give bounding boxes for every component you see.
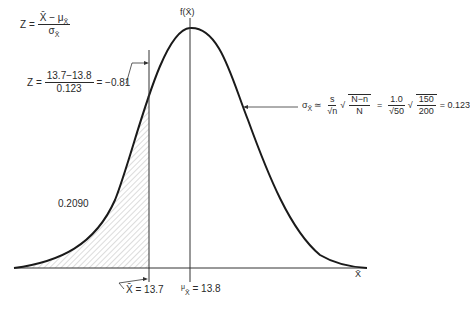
- sigma-formula: σX̄ ≃ s√n √N−nN = 1.0√50 √150200 = 0.123: [302, 94, 470, 116]
- mean-marker-label: μX̄ = 13.8: [181, 284, 221, 294]
- x-axis-label: X̄: [355, 270, 361, 279]
- shaded-area-value: 0.2090: [58, 199, 89, 209]
- z-computed-formula: Z = 13.7−13.8 0.123 = −0.81: [27, 71, 130, 94]
- z-general-formula: Z = X̄ − μX̄ σX̄: [20, 13, 73, 36]
- xbar-marker-label: X̄ = 13.7: [126, 285, 164, 295]
- shaded-tail-area: [14, 90, 149, 268]
- y-axis-label: f(X̄): [180, 8, 195, 17]
